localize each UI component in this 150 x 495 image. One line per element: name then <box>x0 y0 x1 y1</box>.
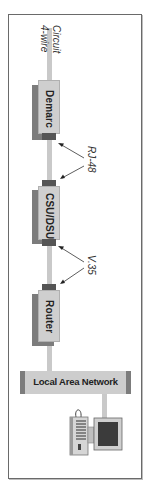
router-label: Router <box>44 300 54 333</box>
router-box: Router <box>38 290 60 342</box>
lan-bar: Local Area Network <box>20 371 131 394</box>
computer-icon <box>66 405 126 457</box>
lan-label: Local Area Network <box>20 376 131 387</box>
